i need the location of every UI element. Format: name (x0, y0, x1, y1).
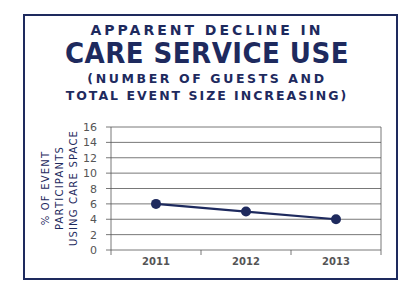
x-tick-label: 2013 (322, 256, 350, 267)
y-tick-label: 10 (83, 167, 97, 180)
y-tick-label: 14 (83, 136, 97, 149)
x-tick-label: 2011 (142, 256, 170, 267)
y-tick-label: 0 (90, 244, 97, 257)
line-chart: 0246810121416201120122013 (0, 0, 414, 291)
x-tick-label: 2012 (232, 256, 260, 267)
y-tick-label: 12 (83, 152, 97, 165)
y-tick-label: 2 (90, 229, 97, 242)
y-tick-label: 8 (90, 183, 97, 196)
y-tick-label: 6 (90, 198, 97, 211)
y-tick-label: 4 (90, 213, 97, 226)
data-point (241, 207, 251, 217)
y-tick-label: 16 (83, 121, 97, 134)
data-point (151, 199, 161, 209)
data-point (331, 214, 341, 224)
